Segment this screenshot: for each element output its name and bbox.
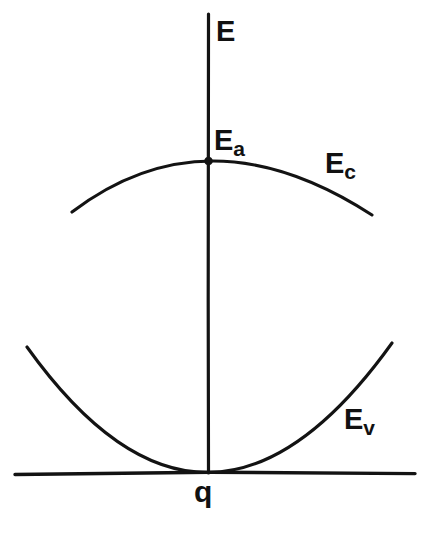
activation-energy-label-sub: a [233, 137, 245, 160]
energy-axis-label: E [216, 17, 235, 46]
valence-curve-label-sub: v [363, 416, 375, 439]
diagram-canvas [0, 0, 432, 546]
coordinate-axis-label-base: q [194, 475, 212, 508]
conduction-curve-label-sub: c [344, 160, 356, 183]
conduction-curve-label-base: E [325, 147, 344, 179]
activation-energy-label: Ea [214, 126, 245, 155]
activation-energy-label-base: E [214, 124, 233, 156]
configuration-coordinate-diagram: E Ea Ec Ev q [0, 0, 432, 546]
conduction-curve-label: Ec [325, 149, 356, 178]
energy-axis-label-base: E [216, 15, 235, 47]
valence-curve-label: Ev [344, 405, 375, 434]
valence-curve-label-base: E [344, 403, 363, 435]
activation-energy-dot [204, 157, 213, 166]
coordinate-axis-label: q [194, 477, 212, 507]
